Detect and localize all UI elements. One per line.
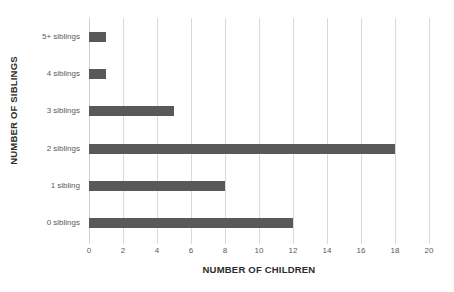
x-axis-tick-label: 12: [278, 246, 308, 255]
gridline-12: [293, 18, 294, 242]
gridline-6: [191, 18, 192, 242]
plot-area: [89, 18, 429, 242]
x-axis-tick-label: 0: [74, 246, 104, 255]
bar-fill: [89, 218, 293, 228]
bar-fill: [89, 144, 395, 154]
x-axis-tick-labels: 02468101214161820: [89, 246, 429, 260]
x-axis-tick-label: 2: [108, 246, 138, 255]
x-axis-tick-label: 10: [244, 246, 274, 255]
x-axis-tick-mark: [293, 240, 294, 244]
gridline-10: [259, 18, 260, 242]
y-axis-tick-label: 3 siblings: [0, 106, 80, 116]
gridline-16: [361, 18, 362, 242]
bar: [89, 218, 293, 228]
x-axis-tick-label: 20: [414, 246, 444, 255]
y-axis-tick-labels: 0 siblings1 sibling2 siblings3 siblings4…: [0, 18, 84, 242]
x-axis-tick-mark: [191, 240, 192, 244]
bar: [89, 181, 225, 191]
x-axis-tick-mark: [157, 240, 158, 244]
gridline-8: [225, 18, 226, 242]
x-axis-tick-mark: [361, 240, 362, 244]
x-axis-tick-mark: [395, 240, 396, 244]
gridline-14: [327, 18, 328, 242]
y-axis-tick-label: 2 siblings: [0, 144, 80, 154]
gridline-18: [395, 18, 396, 242]
bar: [89, 32, 106, 42]
x-axis-tick-mark: [429, 240, 430, 244]
bar-fill: [89, 69, 106, 79]
x-axis-tick-mark: [123, 240, 124, 244]
x-axis-tick-label: 18: [380, 246, 410, 255]
gridline-0: [89, 18, 90, 242]
bar-fill: [89, 181, 225, 191]
x-axis-tick-mark: [327, 240, 328, 244]
x-axis-tick-label: 8: [210, 246, 240, 255]
x-axis-tick-label: 16: [346, 246, 376, 255]
gridline-2: [123, 18, 124, 242]
x-axis-tick-mark: [225, 240, 226, 244]
y-axis-tick-label: 5+ siblings: [0, 32, 80, 42]
y-axis-tick-label: 4 siblings: [0, 69, 80, 79]
gridline-4: [157, 18, 158, 242]
y-axis-tick-label: 0 siblings: [0, 218, 80, 228]
x-axis-tick-mark: [259, 240, 260, 244]
bar-chart: NUMBER OF SIBLINGS 0 siblings1 sibling2 …: [0, 0, 454, 292]
bar: [89, 144, 395, 154]
x-axis-title: NUMBER OF CHILDREN: [89, 264, 429, 275]
gridline-20: [429, 18, 430, 242]
bar: [89, 69, 106, 79]
bar-fill: [89, 106, 174, 116]
x-axis-tick-mark: [89, 240, 90, 244]
bar-fill: [89, 32, 106, 42]
bar: [89, 106, 174, 116]
x-axis-tick-label: 4: [142, 246, 172, 255]
x-axis-tick-label: 14: [312, 246, 342, 255]
x-axis-tick-label: 6: [176, 246, 206, 255]
y-axis-tick-label: 1 sibling: [0, 181, 80, 191]
